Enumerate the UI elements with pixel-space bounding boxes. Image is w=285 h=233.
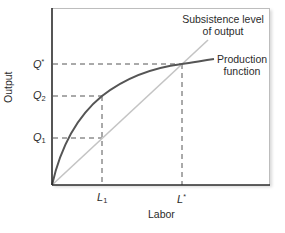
y-axis-label: Output [2, 71, 14, 103]
y-tick-base: Q [33, 58, 42, 70]
x-axis-label: Labor [148, 208, 175, 220]
subsistence-label-line1: Subsistence level [178, 13, 268, 25]
x-tick-sub: 1 [103, 196, 107, 205]
y-tick-q-star: Q* [33, 56, 44, 70]
production-curve [52, 59, 214, 185]
y-tick-q2: Q2 [33, 89, 46, 105]
x-tick-sup: * [183, 193, 186, 200]
subsistence-label: Subsistence level of output [178, 13, 268, 37]
subsistence-line [52, 40, 208, 185]
production-label-line1: Production [214, 53, 270, 65]
subsistence-label-line2: of output [178, 25, 268, 37]
y-tick-sup: * [42, 58, 45, 65]
y-tick-sub: 2 [42, 94, 46, 103]
y-tick-sub: 1 [42, 136, 46, 145]
x-tick-l-star: L* [177, 191, 186, 205]
y-tick-base: Q [33, 89, 42, 101]
x-tick-l1: L1 [97, 191, 107, 207]
y-tick-q1: Q1 [33, 131, 46, 147]
y-tick-base: Q [33, 131, 42, 143]
production-label: Production function [214, 53, 270, 77]
production-label-line2: function [214, 65, 270, 77]
